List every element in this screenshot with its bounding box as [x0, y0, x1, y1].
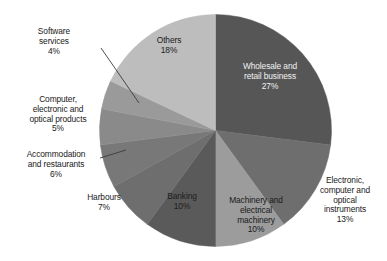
pie-chart: Software services 4% Computer, electroni…: [0, 0, 387, 261]
slice-label-electronic-instruments: Electronic, computer and optical instrum…: [304, 176, 386, 225]
slice-label-software-services: Software services 4%: [8, 27, 100, 56]
slice-label-harbours: Harbours 7%: [68, 193, 140, 213]
slice-label-wholesale: Wholesale and retail business 27%: [220, 62, 320, 91]
slice-label-banking: Banking 10%: [152, 192, 212, 212]
slice-label-others: Others 18%: [138, 36, 200, 56]
slice-label-machinery: Machinery and electrical machinery 10%: [214, 196, 298, 235]
slice-label-computer-products: Computer, electronic and optical product…: [2, 95, 114, 134]
slice-label-accommodation: Accommodation and restaurants 6%: [0, 150, 112, 179]
